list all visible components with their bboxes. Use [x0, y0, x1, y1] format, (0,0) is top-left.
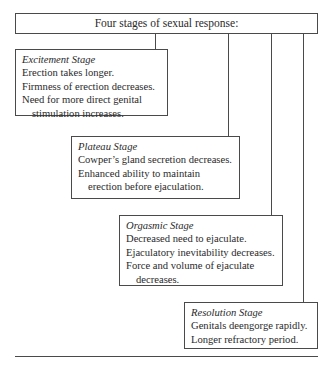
- diagram-title: Four stages of sexual response:: [95, 17, 239, 29]
- stage-line: Force and volume of ejaculate: [126, 259, 276, 272]
- diagram-title-box: Four stages of sexual response:: [15, 13, 318, 34]
- stage-line: Erection takes longer.: [22, 66, 161, 79]
- stage-name: Plateau Stage: [78, 140, 233, 153]
- connector-excitement: [155, 34, 156, 49]
- stage-name: Excitement Stage: [22, 53, 161, 66]
- connector-plateau: [228, 34, 229, 136]
- stage-line: Longer refractory period.: [191, 333, 311, 346]
- stage-line: Genitals deengorge rapidly.: [191, 319, 311, 332]
- stage-line: Firmness of erection decreases.: [22, 80, 161, 93]
- stage-line: Decreased need to ejaculate.: [126, 232, 276, 245]
- stage-line: Enhanced ability to maintain: [78, 167, 233, 180]
- stage-box-excitement: Excitement Stage Erection takes longer. …: [15, 49, 168, 116]
- stage-name: Orgasmic Stage: [126, 219, 276, 232]
- connector-orgasmic: [271, 34, 272, 215]
- stage-line: stimulation increases.: [22, 107, 161, 120]
- stage-box-orgasmic: Orgasmic Stage Decreased need to ejacula…: [119, 215, 283, 286]
- stage-box-plateau: Plateau Stage Cowper’s gland secretion d…: [71, 136, 240, 199]
- stage-line: decreases.: [126, 273, 276, 286]
- stage-line: Cowper’s gland secretion decreases.: [78, 153, 233, 166]
- connector-resolution: [303, 34, 304, 302]
- stage-line: Ejaculatory inevitability decreases.: [126, 246, 276, 259]
- bottom-rule: [15, 356, 318, 357]
- stage-line: Need for more direct genital: [22, 93, 161, 106]
- stage-line: erection before ejaculation.: [78, 180, 233, 193]
- stage-name: Resolution Stage: [191, 306, 311, 319]
- stage-box-resolution: Resolution Stage Genitals deengorge rapi…: [184, 302, 318, 349]
